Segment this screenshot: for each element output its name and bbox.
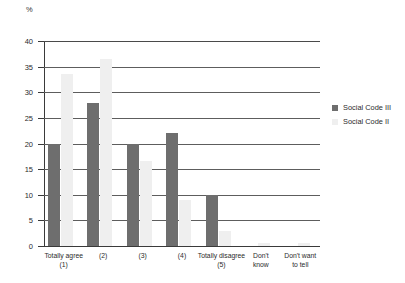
bar (179, 200, 191, 246)
x-axis-label-line: (1) (34, 261, 94, 270)
x-axis-label: Don't wantto tell (270, 252, 330, 269)
y-axis-tick-label: 20 (3, 140, 33, 149)
y-axis-tick-label: 25 (3, 114, 33, 123)
bar (127, 144, 139, 247)
bar (258, 243, 270, 246)
x-axis-label-line: to tell (270, 261, 330, 270)
legend-item-label: Social Code III (343, 103, 391, 112)
y-axis-tick-label: 0 (3, 242, 33, 251)
bar-group (123, 41, 162, 246)
bar (48, 144, 60, 247)
bar (206, 195, 218, 246)
plot-area (44, 41, 320, 246)
legend-item-label: Social Code II (343, 117, 389, 126)
legend-swatch-icon (332, 105, 338, 111)
bar-group (44, 41, 83, 246)
bar (166, 133, 178, 246)
y-axis-tick-label: 40 (3, 37, 33, 46)
y-axis-tick-label: 30 (3, 88, 33, 97)
x-axis-label-line: Don't want (270, 252, 330, 261)
chart-legend: Social Code IIISocial Code II (332, 103, 391, 131)
bar (219, 231, 231, 246)
bar (61, 74, 73, 246)
bar-group (162, 41, 201, 246)
y-axis-tick-label: 35 (3, 63, 33, 72)
bar-group (202, 41, 241, 246)
x-axis-line (44, 246, 320, 247)
legend-item[interactable]: Social Code III (332, 103, 391, 112)
bar (100, 59, 112, 246)
bar-group (241, 41, 280, 246)
legend-item[interactable]: Social Code II (332, 117, 391, 126)
bar (140, 161, 152, 246)
y-axis-tick-label: 10 (3, 191, 33, 200)
bar (87, 103, 99, 247)
y-axis-tick-label: 5 (3, 216, 33, 225)
y-axis-tick-label: 15 (3, 165, 33, 174)
bar-group (83, 41, 122, 246)
y-axis-tick (38, 246, 44, 247)
bar-group (281, 41, 320, 246)
y-axis-unit-label: % (26, 5, 33, 14)
legend-swatch-icon (332, 119, 338, 125)
bar-chart: % 0510152025303540 Totally agree(1)(2)(3… (0, 0, 405, 283)
bar (298, 243, 310, 246)
